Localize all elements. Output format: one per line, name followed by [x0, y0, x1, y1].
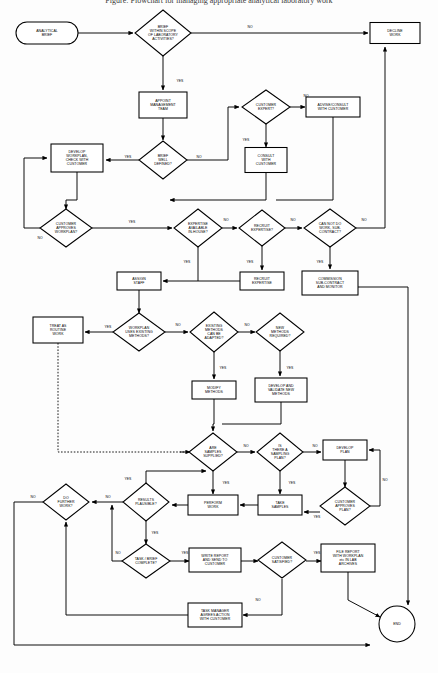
node-customer-approves-wp[interactable]: CUSTOMERAPPROVESWORKPLAN?	[40, 209, 92, 247]
node-label-task-manager-agrees: TASK MANAGERAGREES ACTIONWITH CUSTOMER	[200, 609, 231, 621]
flowchart-canvas: Figure: Flowchart for managing appropria…	[0, 0, 438, 673]
node-modify-methods[interactable]: MODIFYMETHODS	[192, 381, 236, 399]
node-perform-work[interactable]: PERFORMWORK	[188, 495, 238, 515]
page-title: Figure: Flowchart for managing appropria…	[0, 0, 438, 5]
node-consult-with-customer[interactable]: CONSULTWITHCUSTOMER	[245, 148, 287, 173]
node-label-develop-workplan: DEVELOPWORKPLAN,CHECK WITHCUSTOMER	[66, 150, 89, 166]
node-label-customer-satisfied: CUSTOMERSATISFIED?	[272, 556, 293, 564]
node-appoint-management[interactable]: APPOINTMANAGEMENTTEAM	[139, 92, 187, 118]
flowchart-svg: ANALYTICALBRIEFBRIEFWITHIN SCOPEOF LABOR…	[0, 0, 438, 673]
node-are-samples-supplied[interactable]: ARESAMPLESSUPPLIED?	[189, 433, 237, 471]
node-develop-workplan[interactable]: DEVELOPWORKPLAN,CHECK WITHCUSTOMER	[51, 144, 103, 172]
node-label-advise-consult: ADVISE/CONSULTWITH CUSTOMER	[318, 103, 350, 111]
edge-label-e-further-no: NO	[30, 495, 35, 499]
node-recruit-expertise[interactable]: RECRUITEXPERTISE	[240, 272, 284, 290]
edge-label-e-adapted-yes: YES	[220, 366, 228, 370]
edge-label-e-scope-no: NO	[247, 25, 252, 29]
edge-label-e-existingmeth-yes: YES	[105, 325, 113, 329]
node-label-assign-staff: ASSIGNSTAFF	[132, 277, 146, 285]
node-is-sampling-plan[interactable]: ISTHERE ASAMPLINGPLAN?	[257, 433, 303, 471]
node-label-recruit-expertise-q: RECRUITEXPERTISE?	[251, 224, 273, 232]
edge-label-e-inhouse-yes: YES	[184, 260, 192, 264]
node-treat-as-routine[interactable]: TREAT ASROUTINEWORK	[33, 317, 83, 343]
edge-label-e-taskbrief-no: NO	[115, 551, 120, 555]
edge-label-e-approves-yes: YES	[129, 220, 137, 224]
edge-label-e-custplan-no: NO	[382, 478, 387, 482]
node-customer-satisfied[interactable]: CUSTOMERSATISFIED?	[258, 542, 306, 578]
node-advise-consult[interactable]: ADVISE/CONSULTWITH CUSTOMER	[306, 97, 360, 117]
edge-label-e-satisfied-yes: YES	[314, 551, 322, 555]
edge-label-e-adapted-no: NO	[244, 323, 249, 327]
node-results-plausible[interactable]: RESULTSPLAUSIBLE?	[123, 483, 169, 521]
node-task-manager-agrees[interactable]: TASK MANAGERAGREES ACTIONWITH CUSTOMER	[188, 603, 242, 627]
node-label-recruit-expertise: RECRUITEXPERTISE	[252, 277, 273, 285]
node-cannot-do-subcontract[interactable]: CAN NOT DOWORK, SUB-CONTRACT?	[304, 209, 356, 247]
edge-label-e-samples-no: NO	[243, 444, 248, 448]
node-brief-well-defined[interactable]: BRIEFWELLDEFINED?	[139, 141, 187, 179]
node-customer-approves-plan[interactable]: CUSTOMERAPPROVESPLAN?	[320, 487, 370, 525]
edge-label-e-defined-yes: YES	[125, 155, 133, 159]
node-label-workplan-existing: WORKPLANUSES EXISTINGMETHODS?	[125, 326, 153, 338]
edge-label-e-expert-no: NO	[303, 94, 308, 98]
node-take-samples[interactable]: TAKESAMPLES	[258, 495, 302, 515]
edge-label-e-results-no: NO	[105, 495, 110, 499]
node-existing-adapted[interactable]: EXISTINGMETHODSCAN BEADAPTED?	[190, 312, 238, 352]
node-label-customer-expert: CUSTOMEREXPERT?	[256, 103, 277, 111]
node-decline-work[interactable]: DECLINEWORK	[370, 23, 420, 44]
node-expertise-in-house[interactable]: EXPERTISEAVAILABLEIN-HOUSE?	[174, 209, 222, 247]
edge-label-e-approves-no: NO	[37, 236, 42, 240]
edge-label-e-existingmeth-no: NO	[175, 323, 180, 327]
node-brief-within-scope[interactable]: BRIEFWITHIN SCOPEOF LABORATORYACTIVITIES…	[135, 10, 191, 56]
node-customer-expert[interactable]: CUSTOMEREXPERT?	[242, 90, 290, 124]
node-new-methods-required[interactable]: NEWMETHODSREQUIRED?	[256, 313, 304, 351]
node-commission-subcontract[interactable]: COMMISSIONSUB-CONTRACTAND MONITOR	[302, 271, 358, 295]
edge-label-e-recruit-yes: YES	[247, 260, 255, 264]
node-end[interactable]: END	[379, 606, 415, 642]
node-label-modify-methods: MODIFYMETHODS	[205, 386, 223, 394]
node-recruit-expertise-q[interactable]: RECRUITEXPERTISE?	[239, 210, 285, 246]
edge-label-e-plan-yes: YES	[289, 481, 297, 485]
node-label-task-brief-complete: TASK / BRIEFCOMPLETE?	[135, 557, 158, 565]
edge-label-e-inhouse-no: NO	[223, 218, 228, 222]
node-assign-staff[interactable]: ASSIGNSTAFF	[117, 272, 161, 290]
node-develop-validate[interactable]: DEVELOP ANDVALIDATE NEWMETHODS	[255, 378, 307, 402]
node-write-report[interactable]: WRITE REPORTAND SEND TOCUSTOMER	[189, 548, 241, 572]
node-label-expertise-in-house: EXPERTISEAVAILABLEIN-HOUSE?	[188, 222, 209, 234]
node-file-report[interactable]: FILE REPORTWITH WORKPLANetc IN LABARCHIV…	[321, 544, 375, 572]
node-task-brief-complete[interactable]: TASK / BRIEFCOMPLETE?	[122, 544, 170, 578]
edge-label-e-results-yes-top: YES	[125, 477, 133, 481]
edge-label-e-sub-no: NO	[361, 218, 366, 222]
node-label-customer-approves-wp: CUSTOMERAPPROVESWORKPLAN?	[55, 222, 77, 234]
edge-label-e-expert-yes: YES	[243, 138, 251, 142]
edge-label-e-scope-yes: YES	[177, 79, 185, 83]
node-label-cannot-do-subcontract: CAN NOT DOWORK, SUB-CONTRACT?	[319, 222, 342, 234]
node-label-results-plausible: RESULTSPLAUSIBLE?	[135, 498, 157, 506]
edge-label-e-new-yes: YES	[287, 366, 295, 370]
node-workplan-existing[interactable]: WORKPLANUSES EXISTINGMETHODS?	[113, 313, 165, 351]
edge-label-e-samples-yes: YES	[223, 481, 231, 485]
edge-label-e-defined-no: NO	[196, 155, 201, 159]
edge-label-e-custplan-yes: YES	[314, 515, 322, 519]
edge-label-e-sub-yes: YES	[317, 260, 325, 264]
edge-label-e-satisfied-no: NO	[255, 598, 260, 602]
node-do-further-work[interactable]: DOFURTHERWORK?	[43, 484, 89, 520]
edge-label-e-plan-no: NO	[312, 444, 317, 448]
node-label-commission-subcontract: COMMISSIONSUB-CONTRACTAND MONITOR	[316, 277, 345, 289]
edge-label-e-recruit-no: NO	[290, 218, 295, 222]
edge-label-e-taskbrief-yes: YES	[182, 551, 190, 555]
node-develop-plan[interactable]: DEVELOPPLAN	[323, 440, 367, 460]
node-analytical-brief[interactable]: ANALYTICALBRIEF	[16, 22, 78, 44]
flowchart-nodes: ANALYTICALBRIEFBRIEFWITHIN SCOPEOF LABOR…	[16, 10, 420, 642]
edge-label-e-results-yes-dn: YES	[152, 531, 160, 535]
node-label-end: END	[393, 622, 401, 626]
